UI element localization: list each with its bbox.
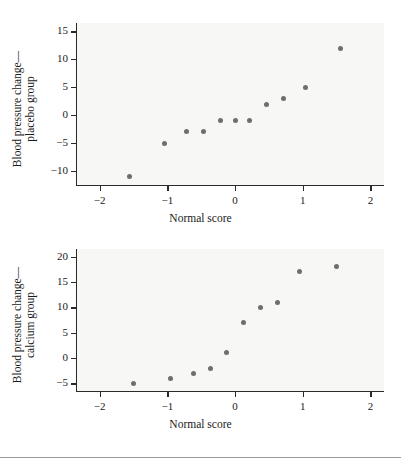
x-tick-calcium-1 bbox=[167, 392, 168, 397]
x-tick-placebo-0 bbox=[100, 186, 101, 191]
y-tick-placebo-5 bbox=[71, 31, 76, 32]
x-tick-calcium-0 bbox=[100, 392, 101, 397]
x-tick-label-placebo-3: 1 bbox=[283, 195, 323, 206]
x-tick-label-calcium-1: −1 bbox=[147, 401, 187, 412]
data-point bbox=[241, 320, 246, 325]
y-axis-label-line2-calcium: calcium group bbox=[24, 244, 37, 406]
y-tick-calcium-3 bbox=[71, 307, 76, 308]
x-tick-calcium-4 bbox=[370, 392, 371, 397]
x-tick-placebo-4 bbox=[370, 186, 371, 191]
y-axis-label-line1-calcium: Blood pressure change— bbox=[11, 244, 24, 406]
y-tick-calcium-2 bbox=[71, 333, 76, 334]
data-point bbox=[303, 85, 308, 90]
y-axis-line-calcium bbox=[76, 249, 77, 391]
x-tick-label-calcium-3: 1 bbox=[283, 401, 323, 412]
x-tick-placebo-3 bbox=[303, 186, 304, 191]
plot-area-calcium bbox=[76, 249, 384, 391]
x-tick-label-placebo-2: 0 bbox=[215, 195, 255, 206]
y-axis-label-line2-placebo: placebo group bbox=[24, 18, 37, 200]
y-tick-calcium-4 bbox=[71, 282, 76, 283]
data-point bbox=[264, 102, 269, 107]
y-tick-calcium-0 bbox=[71, 383, 76, 384]
data-point bbox=[275, 300, 280, 305]
y-tick-calcium-1 bbox=[71, 358, 76, 359]
data-point bbox=[218, 118, 223, 123]
x-tick-calcium-3 bbox=[303, 392, 304, 397]
x-tick-placebo-1 bbox=[167, 186, 168, 191]
chart-panel-placebo: −10−5051015−2−1012Normal scoreBlood pres… bbox=[0, 0, 401, 236]
y-tick-placebo-0 bbox=[71, 171, 76, 172]
x-tick-label-calcium-0: −2 bbox=[80, 401, 120, 412]
data-point bbox=[233, 118, 238, 123]
data-point bbox=[258, 305, 263, 310]
x-tick-label-calcium-4: 2 bbox=[350, 401, 390, 412]
data-point bbox=[162, 141, 167, 146]
x-axis-line-placebo bbox=[76, 185, 384, 186]
y-axis-line-placebo bbox=[76, 23, 77, 185]
y-axis-label-line1-placebo: Blood pressure change— bbox=[11, 18, 24, 200]
y-tick-placebo-1 bbox=[71, 143, 76, 144]
y-axis-label-calcium: Blood pressure change—calcium group bbox=[11, 244, 37, 406]
x-tick-label-placebo-1: −1 bbox=[147, 195, 187, 206]
figure-two-normal-quantile-plots: −10−5051015−2−1012Normal scoreBlood pres… bbox=[0, 0, 401, 472]
y-axis-label-placebo: Blood pressure change—placebo group bbox=[11, 18, 37, 200]
y-tick-placebo-2 bbox=[71, 115, 76, 116]
horizontal-divider-rule bbox=[0, 457, 401, 458]
y-tick-placebo-3 bbox=[71, 87, 76, 88]
chart-panel-calcium: −505101520−2−1012Normal scoreBlood press… bbox=[0, 236, 401, 472]
x-tick-placebo-2 bbox=[235, 186, 236, 191]
x-axis-label-placebo: Normal score bbox=[0, 212, 401, 224]
y-tick-placebo-4 bbox=[71, 59, 76, 60]
data-point bbox=[338, 46, 343, 51]
data-point bbox=[208, 366, 213, 371]
x-tick-label-placebo-4: 2 bbox=[350, 195, 390, 206]
x-axis-line-calcium bbox=[76, 391, 384, 392]
x-axis-label-calcium: Normal score bbox=[0, 418, 401, 430]
y-tick-calcium-5 bbox=[71, 257, 76, 258]
x-tick-label-calcium-2: 0 bbox=[215, 401, 255, 412]
data-point bbox=[131, 381, 136, 386]
x-tick-calcium-2 bbox=[235, 392, 236, 397]
x-tick-label-placebo-0: −2 bbox=[80, 195, 120, 206]
data-point bbox=[191, 371, 196, 376]
